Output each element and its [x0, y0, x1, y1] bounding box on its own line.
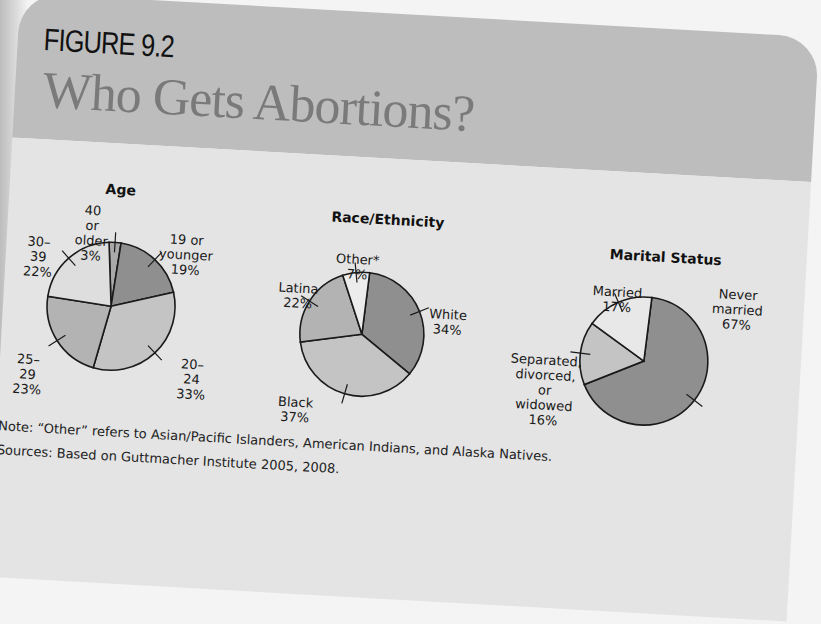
slice-label-never-married: Never married 67%	[711, 286, 764, 334]
slice-label-20-24: 20–24 33%	[176, 356, 207, 403]
slice-label-separated-divorced-widowed: Separated, divorced, or widowed 16%	[507, 351, 582, 430]
slice-label-white: White 34%	[428, 306, 467, 338]
slice-label-latina: Latina 22%	[277, 280, 319, 312]
slice-label-19-or-younger: 19 or younger 19%	[158, 231, 214, 279]
figure-number: FIGURE 9.2	[43, 22, 175, 65]
slice-label-other: Other* 7%	[335, 251, 380, 283]
slice-label-25-29: 25–29 23%	[12, 351, 43, 398]
marital-pie	[8, 0, 9, 1]
slice-label-married: Married 17%	[591, 283, 642, 316]
textbook-page: FIGURE 9.2 Who Gets Abortions? Age 40 or…	[0, 0, 821, 607]
slice-label-30-39: 30–39 22%	[22, 233, 53, 280]
chart-title-age: Age	[105, 181, 136, 199]
slice-label-black: Black 37%	[277, 394, 314, 426]
slice-label-40-or-older: 40 or older 3%	[73, 202, 109, 264]
